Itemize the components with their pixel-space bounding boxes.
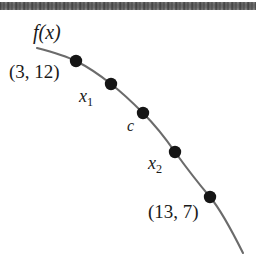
function-name-label: f(x) (33, 22, 61, 42)
right-endpoint-label: (13, 7) (148, 202, 199, 221)
x1-base: x (79, 86, 87, 106)
data-point-c (137, 107, 149, 119)
x1-subscript: 1 (87, 95, 93, 109)
data-point-x1 (105, 78, 117, 90)
function-curve (37, 48, 243, 253)
data-point-right-endpoint (204, 191, 216, 203)
c-label: c (127, 118, 134, 134)
left-endpoint-label: (3, 12) (9, 62, 60, 81)
x2-subscript: 2 (156, 162, 162, 176)
x2-base: x (148, 153, 156, 173)
data-point-x2 (169, 146, 181, 158)
x1-label: x1 (79, 87, 93, 108)
function-graph-figure: f(x) (3, 12) x1 c x2 (13, 7) (0, 0, 256, 277)
x2-label: x2 (148, 154, 162, 175)
data-point-left-endpoint (70, 55, 82, 67)
